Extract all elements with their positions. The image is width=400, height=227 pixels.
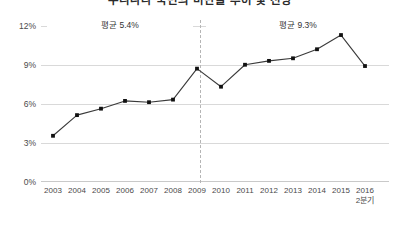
- data-point-2014: [315, 47, 319, 51]
- annotation-left-average: 평균 5.4%: [47, 20, 193, 33]
- data-point-2010: [219, 85, 223, 89]
- y-tick-label-9: 9%: [10, 61, 36, 70]
- plot-area: [41, 26, 389, 181]
- annotation-right-average: 평균 9.3%: [206, 20, 390, 33]
- y-tick-label-3: 3%: [10, 139, 36, 148]
- data-point-2008: [171, 98, 175, 102]
- chart-container: 우리나라 국민의 비만율 추이 및 전망 12% 9% 6% 3% 0% 평균 …: [0, 0, 400, 227]
- data-series-line: [41, 26, 389, 182]
- x-tick-label-2016: 2016 2분기: [348, 186, 382, 206]
- data-point-2009: [195, 67, 199, 71]
- data-point-2005: [99, 107, 103, 111]
- data-point-2015: [339, 33, 343, 37]
- data-point-2013: [291, 56, 295, 60]
- chart-title: 우리나라 국민의 비만율 추이 및 전망: [0, 0, 400, 7]
- y-tick-label-12: 12%: [10, 22, 36, 31]
- y-tick-label-6: 6%: [10, 100, 36, 109]
- y-tick-label-0: 0%: [10, 178, 36, 187]
- data-point-2003: [51, 134, 55, 138]
- data-point-2011: [243, 63, 247, 67]
- data-point-2004: [75, 113, 79, 117]
- annotation-left-average-label: 평균 5.4%: [47, 19, 193, 32]
- data-point-2012: [267, 59, 271, 63]
- data-point-2016: [363, 64, 367, 68]
- annotation-right-average-label: 평균 9.3%: [206, 19, 390, 32]
- data-point-2006: [123, 99, 127, 103]
- data-point-2007: [147, 100, 151, 104]
